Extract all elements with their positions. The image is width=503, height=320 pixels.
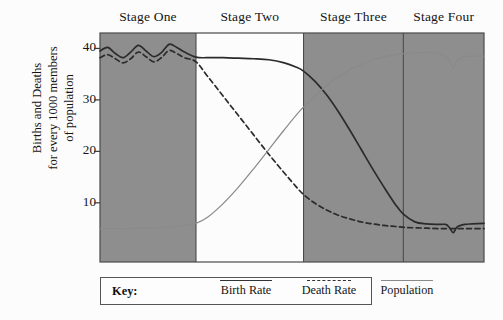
demographic-transition-figure: Births and Deaths for every 1000 members… — [0, 0, 503, 320]
legend-swatch-birth-rate — [220, 280, 272, 281]
legend-entry-birth-rate: Birth Rate — [208, 283, 284, 298]
chart-plot-area — [0, 0, 503, 320]
legend-swatch-death-rate — [307, 280, 351, 281]
legend-key-label: Key: — [112, 284, 137, 299]
legend-entry-population: Population — [369, 283, 445, 298]
legend-entry-death-rate: Death Rate — [291, 283, 367, 298]
chart-legend: Key: Birth Rate Death Rate Population — [100, 277, 372, 305]
legend-swatch-population — [381, 280, 433, 281]
